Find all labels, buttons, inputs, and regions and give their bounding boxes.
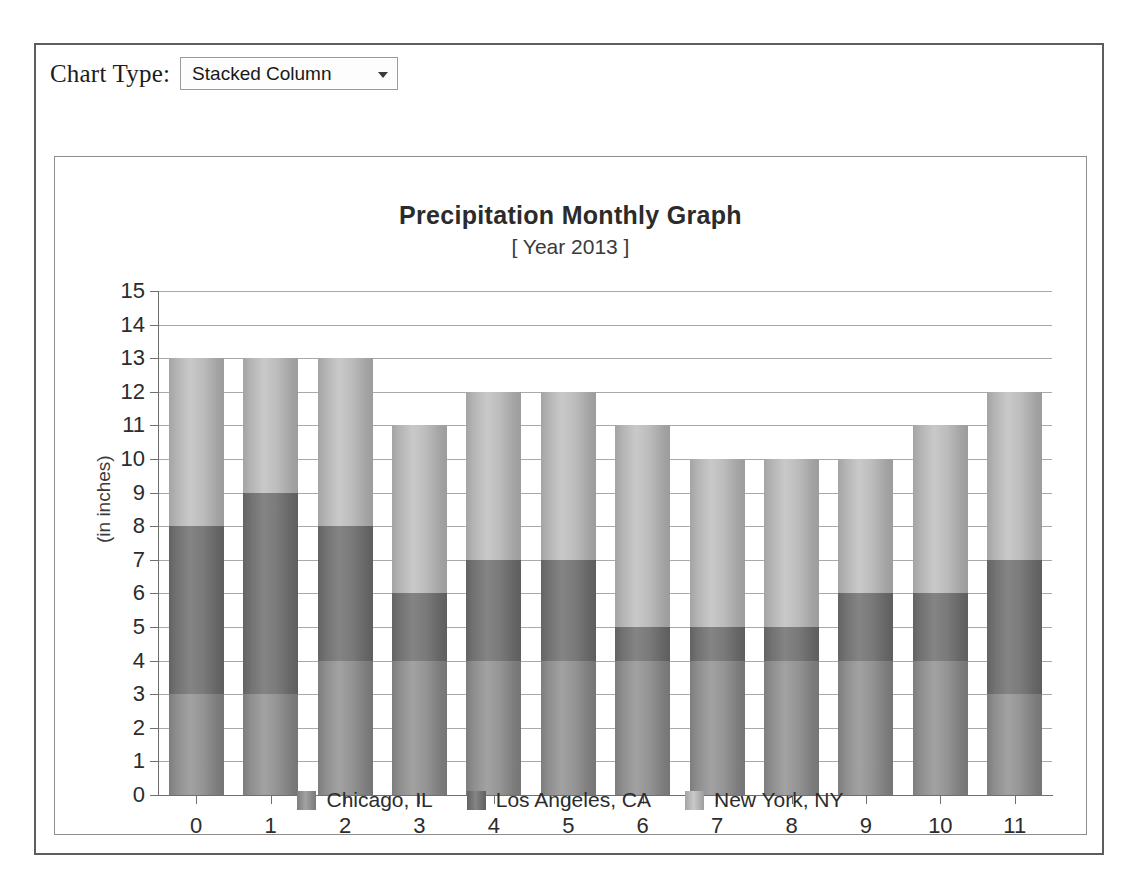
plot-canvas: 012345678910111213141501234567891011 [159,291,1052,795]
x-axis-tick-label: 0 [190,813,202,839]
x-axis-tick-label: 2 [339,813,351,839]
y-axis-tick-label: 5 [133,614,145,640]
bar-segment[interactable] [615,627,670,661]
bar-segment[interactable] [690,661,745,795]
bar-segment[interactable] [615,661,670,795]
bar-segment[interactable] [318,358,373,526]
y-axis-tick [150,392,159,393]
y-axis-tick [150,761,159,762]
y-axis-tick [150,593,159,594]
x-axis-tick-label: 5 [562,813,574,839]
x-axis-tick-label: 10 [928,813,952,839]
bar-segment[interactable] [318,526,373,660]
bar-segment[interactable] [987,560,1042,694]
bar-stack[interactable] [318,291,373,795]
bar-stack[interactable] [987,291,1042,795]
y-axis-tick [150,728,159,729]
legend-item[interactable]: New York, NY [685,788,844,812]
plot-area: 012345678910111213141501234567891011 [159,291,1052,795]
y-axis-tick [150,358,159,359]
y-axis-tick-label: 1 [133,748,145,774]
legend-item[interactable]: Los Angeles, CA [467,788,651,812]
y-axis-tick [150,526,159,527]
x-axis-tick-label: 6 [637,813,649,839]
y-axis-tick [150,661,159,662]
bar-segment[interactable] [764,627,819,661]
bar-segment[interactable] [392,661,447,795]
bar-segment[interactable] [838,593,893,660]
bar-segment[interactable] [541,392,596,560]
chevron-down-icon [378,72,388,78]
y-axis-tick [150,560,159,561]
bar-segment[interactable] [243,493,298,695]
x-axis-tick-label: 7 [711,813,723,839]
bar-stack[interactable] [169,291,224,795]
bar-stack[interactable] [243,291,298,795]
chart-page-panel: Chart Type: Stacked Column Precipitation… [34,43,1104,855]
legend-label: New York, NY [714,788,844,812]
bar-segment[interactable] [913,661,968,795]
bar-segment[interactable] [243,358,298,492]
y-axis-tick [150,694,159,695]
bar-segment[interactable] [392,593,447,660]
bar-segment[interactable] [838,661,893,795]
y-axis-tick [150,425,159,426]
y-axis-tick [150,627,159,628]
bar-stack[interactable] [690,291,745,795]
y-axis-tick-label: 8 [133,513,145,539]
bar-stack[interactable] [466,291,521,795]
screenshot-root: Chart Type: Stacked Column Precipitation… [0,0,1137,886]
y-axis-tick-label: 13 [121,345,145,371]
bar-stack[interactable] [913,291,968,795]
legend-swatch-icon [467,791,486,810]
bar-segment[interactable] [764,661,819,795]
bar-segment[interactable] [169,694,224,795]
bar-segment[interactable] [466,392,521,560]
x-axis-tick-label: 9 [860,813,872,839]
bar-segment[interactable] [987,392,1042,560]
y-axis-tick-label: 7 [133,547,145,573]
bar-stack[interactable] [392,291,447,795]
chart-toolbar: Chart Type: Stacked Column [50,57,398,90]
bar-segment[interactable] [243,694,298,795]
bar-segment[interactable] [318,661,373,795]
bar-stack[interactable] [764,291,819,795]
bar-segment[interactable] [913,593,968,660]
bar-segment[interactable] [913,425,968,593]
chart-type-select[interactable]: Stacked Column [180,57,398,90]
bar-segment[interactable] [169,358,224,526]
legend-item[interactable]: Chicago, IL [297,788,432,812]
y-axis-tick-label: 9 [133,480,145,506]
bar-segment[interactable] [541,661,596,795]
y-axis-tick [150,325,159,326]
y-axis-tick-label: 12 [121,379,145,405]
bar-segment[interactable] [615,425,670,627]
bar-segment[interactable] [690,627,745,661]
y-axis-tick-label: 2 [133,715,145,741]
bar-stack[interactable] [541,291,596,795]
bar-segment[interactable] [541,560,596,661]
y-axis-title: (in inches) [93,455,115,543]
y-axis-tick-label: 11 [122,412,145,438]
chart-type-selected-value: Stacked Column [192,63,331,85]
bar-segment[interactable] [690,459,745,627]
bar-segment[interactable] [764,459,819,627]
chart-title: Precipitation Monthly Graph [55,201,1086,230]
bar-stack[interactable] [615,291,670,795]
y-axis-tick-label: 3 [133,681,145,707]
legend-label: Los Angeles, CA [496,788,651,812]
bar-segment[interactable] [169,526,224,694]
y-axis-tick-label: 15 [121,278,145,304]
x-axis-tick-label: 4 [488,813,500,839]
bar-segment[interactable] [987,694,1042,795]
chart-type-label: Chart Type: [50,60,170,88]
bar-segment[interactable] [466,661,521,795]
bar-segment[interactable] [466,560,521,661]
y-axis-line [158,291,159,795]
bar-stack[interactable] [838,291,893,795]
bar-segment[interactable] [392,425,447,593]
x-axis-tick-label: 1 [265,813,277,839]
legend-label: Chicago, IL [326,788,432,812]
bar-segment[interactable] [838,459,893,593]
x-axis-tick-label: 8 [785,813,797,839]
